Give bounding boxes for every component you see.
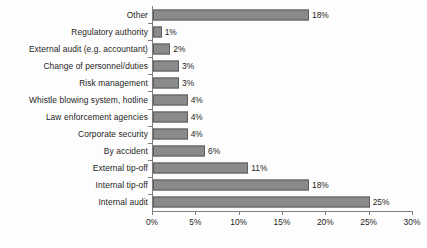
bar-value-label: 18% <box>312 181 329 189</box>
category-label: Regulatory authority <box>71 27 148 35</box>
bar-value-label: 6% <box>208 147 220 155</box>
bar <box>153 26 162 37</box>
bar-value-label: 4% <box>191 130 203 138</box>
category-label: Internal tip-off <box>96 181 148 189</box>
bar-value-label: 1% <box>165 27 177 35</box>
category-label: Whistle blowing system, hotline <box>29 96 148 104</box>
x-axis-tick-label: 25% <box>360 218 377 226</box>
bar <box>153 129 188 140</box>
x-axis-tick-label: 5% <box>189 218 201 226</box>
bar-value-label: 3% <box>182 79 194 87</box>
x-axis-tick <box>195 211 196 215</box>
bar-row: Change of personnel/duties3% <box>0 57 427 74</box>
x-axis-tick-label: 30% <box>404 218 421 226</box>
x-axis-tick <box>412 211 413 215</box>
category-label: Internal audit <box>98 198 148 206</box>
category-label: External tip-off <box>93 164 148 172</box>
y-axis-tick <box>148 57 152 58</box>
y-axis-tick <box>148 40 152 41</box>
bar-value-label: 11% <box>251 164 267 172</box>
bar-value-label: 2% <box>173 44 185 52</box>
bar-row: Internal tip-off18% <box>0 177 427 194</box>
category-label: Corporate security <box>78 130 148 138</box>
category-label: By accident <box>104 147 148 155</box>
bar-value-label: 25% <box>373 198 390 206</box>
x-axis-tick-label: 0% <box>146 218 158 226</box>
bar-row: Whistle blowing system, hotline4% <box>0 91 427 108</box>
bar-row: Corporate security4% <box>0 126 427 143</box>
x-axis-tick-label: 15% <box>274 218 291 226</box>
bar <box>153 9 309 20</box>
x-axis-tick <box>325 211 326 215</box>
y-axis-tick <box>148 160 152 161</box>
x-axis-tick <box>239 211 240 215</box>
category-label: Other <box>127 10 148 18</box>
y-axis-tick <box>148 177 152 178</box>
x-axis-tick-label: 10% <box>230 218 247 226</box>
y-axis-tick <box>148 143 152 144</box>
category-label: External audit (e.g. accountant) <box>29 44 148 52</box>
category-label: Risk management <box>79 79 148 87</box>
x-axis-tick-label: 20% <box>317 218 334 226</box>
bar-row: External tip-off11% <box>0 160 427 177</box>
y-axis-tick <box>148 126 152 127</box>
bar-row: By accident6% <box>0 143 427 160</box>
y-axis-tick <box>148 194 152 195</box>
y-axis-tick <box>148 74 152 75</box>
x-axis-tick <box>369 211 370 215</box>
category-label: Change of personnel/duties <box>43 62 148 70</box>
bar-value-label: 4% <box>191 113 203 121</box>
bar <box>153 77 179 88</box>
bar <box>153 163 248 174</box>
bar-chart: Other18%Regulatory authority1%External a… <box>0 0 427 248</box>
bar <box>153 146 205 157</box>
bar-value-label: 4% <box>191 96 203 104</box>
bar-row: Regulatory authority1% <box>0 23 427 40</box>
bar-value-label: 18% <box>312 10 329 18</box>
chart-rows: Other18%Regulatory authority1%External a… <box>0 6 427 211</box>
y-axis-tick <box>148 91 152 92</box>
x-axis-tick <box>152 211 153 215</box>
bar <box>153 94 188 105</box>
bar <box>153 43 170 54</box>
bar-row: Other18% <box>0 6 427 23</box>
bar-row: Risk management3% <box>0 74 427 91</box>
bar <box>153 197 370 208</box>
y-axis-tick <box>148 109 152 110</box>
bar-row: Internal audit25% <box>0 194 427 211</box>
bar-row: External audit (e.g. accountant)2% <box>0 40 427 57</box>
y-axis-tick <box>148 23 152 24</box>
bar-value-label: 3% <box>182 62 194 70</box>
bar <box>153 60 179 71</box>
x-axis-tick <box>282 211 283 215</box>
bar <box>153 112 188 123</box>
bar <box>153 180 309 191</box>
category-label: Law enforcement agencies <box>46 113 148 121</box>
bar-row: Law enforcement agencies4% <box>0 109 427 126</box>
